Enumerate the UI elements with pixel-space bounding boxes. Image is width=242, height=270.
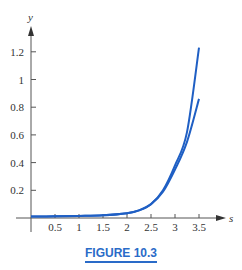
x-tick-label: 3 (172, 221, 178, 233)
x-tick-label: 1 (76, 221, 82, 233)
figure-caption-container: FIGURE 10.3 (0, 243, 242, 263)
x-axis-label: s (229, 212, 233, 224)
y-tick-label: 0.2 (10, 184, 24, 196)
y-axis-label: y (27, 11, 33, 23)
y-tick-label: 1 (19, 74, 25, 86)
chart: sy0.511.522.533.50.20.40.60.811.2 (0, 0, 242, 240)
upper-curve (31, 48, 199, 217)
x-tick-label: 2 (124, 221, 130, 233)
x-axis-arrow-icon (216, 215, 226, 221)
y-tick-label: 0.8 (10, 101, 24, 113)
x-tick-label: 1.5 (96, 221, 110, 233)
y-tick-label: 1.2 (10, 46, 24, 58)
x-tick-label: 3.5 (192, 221, 206, 233)
axes: sy0.511.522.533.50.20.40.60.811.2 (10, 11, 233, 233)
lower-curve (31, 99, 199, 217)
curves (31, 48, 199, 217)
x-tick-label: 0.5 (48, 221, 62, 233)
y-axis-arrow-icon (28, 26, 34, 36)
y-tick-label: 0.6 (10, 129, 24, 141)
figure-caption: FIGURE 10.3 (85, 246, 157, 263)
y-tick-label: 0.4 (10, 157, 24, 169)
x-tick-label: 2.5 (144, 221, 158, 233)
